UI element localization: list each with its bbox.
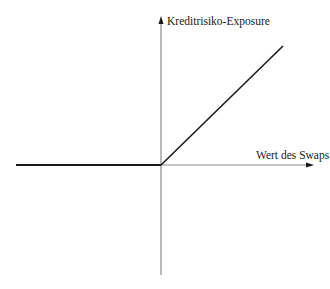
- x-axis-arrow-icon: [306, 163, 314, 168]
- x-axis-label: Wert des Swaps: [256, 150, 329, 162]
- y-axis-arrow-icon: [159, 16, 164, 24]
- y-axis-label: Kreditrisiko-Exposure: [167, 16, 270, 28]
- diagram-canvas: [0, 0, 330, 289]
- curve-rising-segment: [161, 46, 283, 165]
